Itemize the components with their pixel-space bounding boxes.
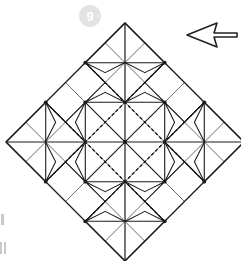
step-number-badge: 9	[79, 5, 101, 27]
cropped-edge-marks	[0, 212, 12, 257]
edge-mark-2	[0, 242, 2, 254]
diagram-canvas: 9	[0, 0, 241, 261]
edge-mark-1	[1, 214, 4, 225]
edge-mark-3	[4, 242, 6, 254]
right-arrow-icon	[186, 20, 238, 50]
